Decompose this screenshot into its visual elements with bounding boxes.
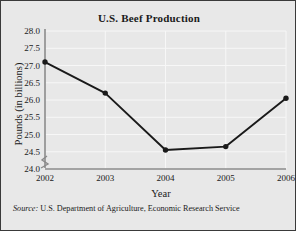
y-tick-labels: 28.027.527.026.526.025.525.024.524.0: [24, 26, 40, 174]
y-axis-break-icon: [41, 156, 48, 168]
data-point: [163, 147, 168, 152]
source-text: U.S. Department of Agriculture, Economic…: [40, 204, 239, 213]
x-tick-labels: 20022003200420052006: [36, 173, 296, 183]
data-point: [283, 96, 288, 101]
x-tick-label: 2005: [217, 173, 236, 183]
y-tick-label: 26.5: [24, 78, 40, 88]
data-point: [223, 144, 228, 149]
y-tick-label: 27.0: [24, 61, 40, 71]
source-label: Source:: [13, 204, 38, 213]
y-tick-label: 25.0: [24, 130, 40, 140]
x-tick-label: 2006: [277, 173, 296, 183]
x-axis-title: Year: [151, 188, 171, 199]
axis-break-zigzag: [41, 156, 48, 168]
chart-figure: U.S. Beef Production 28.027.527.026.526.…: [0, 0, 296, 231]
x-tick-label: 2003: [96, 173, 115, 183]
y-tick-label: 27.5: [24, 43, 40, 53]
y-tick-label: 25.5: [24, 112, 40, 122]
y-tick-label: 24.5: [24, 147, 40, 157]
data-point: [103, 90, 108, 95]
y-tick-label: 26.0: [24, 95, 40, 105]
x-tick-label: 2004: [157, 173, 176, 183]
line-chart-plot: 28.027.527.026.526.025.525.024.524.0 200…: [1, 1, 296, 231]
data-point: [42, 59, 47, 64]
y-axis-title: Pounds (in billions): [13, 62, 25, 145]
y-tick-label: 28.0: [24, 26, 40, 36]
source-note: Source: U.S. Department of Agriculture, …: [13, 204, 240, 213]
x-tick-label: 2002: [36, 173, 54, 183]
